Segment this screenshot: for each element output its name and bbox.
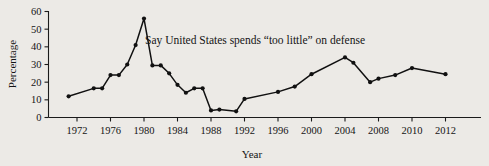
data-point [134, 43, 138, 47]
data-point [142, 16, 146, 20]
data-point [167, 71, 171, 75]
data-point [67, 94, 71, 98]
x-tick-label: 2008 [368, 125, 389, 136]
x-tick-label: 2004 [335, 125, 357, 136]
data-point [201, 86, 205, 90]
x-tick-label: 1992 [234, 125, 255, 136]
data-point [92, 86, 96, 90]
data-point [309, 72, 313, 76]
x-tick-label: 1980 [134, 125, 155, 136]
y-axis-title: Percentage [6, 40, 18, 88]
data-point [234, 109, 238, 113]
x-tick-label: 2010 [402, 125, 423, 136]
data-point [175, 83, 179, 87]
y-tick-label: 40 [31, 41, 42, 52]
y-tick-label: 10 [31, 94, 42, 105]
line-chart: 0102030405060 Percentage 197219761980198… [0, 0, 489, 166]
data-point [100, 86, 104, 90]
data-point [150, 63, 154, 67]
y-tick-label: 60 [31, 6, 42, 17]
data-point [184, 91, 188, 95]
data-point [242, 97, 246, 101]
data-point [410, 66, 414, 70]
data-point [293, 84, 297, 88]
y-tick-label: 30 [31, 59, 42, 70]
x-tick-label: 2000 [301, 125, 322, 136]
data-point [192, 86, 196, 90]
chart-annotation: Say United States spends “too little” on… [145, 34, 365, 47]
x-tick-label: 1996 [268, 125, 289, 136]
x-tick-label: 1984 [167, 125, 189, 136]
data-point [276, 90, 280, 94]
data-point [368, 80, 372, 84]
data-point [443, 72, 447, 76]
data-point [343, 55, 347, 59]
data-point [159, 63, 163, 67]
x-tick-label: 1976 [100, 125, 121, 136]
data-point [209, 108, 213, 112]
x-tick-label: 2012 [435, 125, 456, 136]
data-point [108, 73, 112, 77]
data-point [376, 77, 380, 81]
plot-background [0, 0, 489, 166]
data-point [393, 73, 397, 77]
chart-figure: 0102030405060 Percentage 197219761980198… [0, 0, 489, 166]
data-point [351, 61, 355, 65]
y-tick-label: 0 [36, 112, 41, 123]
data-point [217, 107, 221, 111]
data-point [117, 73, 121, 77]
data-point [125, 62, 129, 66]
x-axis-title: Year [242, 148, 263, 160]
x-tick-label: 1972 [67, 125, 88, 136]
y-tick-label: 20 [31, 77, 42, 88]
x-tick-label: 1988 [201, 125, 222, 136]
y-tick-label: 50 [31, 24, 42, 35]
